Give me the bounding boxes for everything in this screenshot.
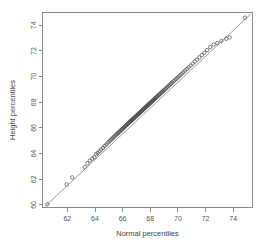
- y-tick-label: 68: [30, 98, 37, 106]
- x-tick-label: 70: [174, 215, 182, 222]
- y-tick-label: 62: [30, 175, 37, 183]
- x-tick-label: 68: [146, 215, 154, 222]
- x-tick-label: 66: [119, 215, 127, 222]
- x-tick-label: 62: [63, 215, 71, 222]
- qq-plot-figure: 62646668707274 6062646668707274 Normal p…: [0, 0, 267, 245]
- x-tick-label: 74: [229, 215, 237, 222]
- x-axis-title: Normal percentiles: [116, 229, 179, 238]
- y-tick-label: 66: [30, 124, 37, 132]
- x-tick-label: 64: [91, 215, 99, 222]
- y-tick-label: 64: [30, 150, 37, 158]
- x-tick-label: 72: [202, 215, 210, 222]
- y-axis-title: Height percentiles: [8, 80, 17, 140]
- qq-plot-canvas: 62646668707274 6062646668707274 Normal p…: [0, 0, 267, 245]
- y-tick-label: 60: [30, 201, 37, 209]
- y-tick-label: 72: [30, 47, 37, 55]
- y-tick-label: 70: [30, 73, 37, 81]
- y-tick-label: 74: [30, 21, 37, 29]
